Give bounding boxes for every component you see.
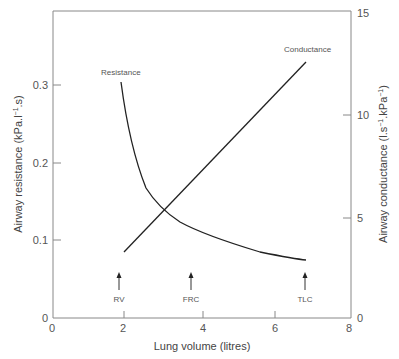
y-right-axis-title: Airway conductance (l.s−1.kPa−1) bbox=[377, 85, 389, 243]
frc-marker: FRC bbox=[183, 272, 200, 304]
svg-text:RV: RV bbox=[114, 295, 126, 304]
resistance-curve bbox=[121, 82, 306, 260]
arrow-up-icon bbox=[303, 272, 308, 278]
svg-text:0.1: 0.1 bbox=[33, 234, 48, 246]
svg-text:2: 2 bbox=[120, 322, 126, 334]
arrow-up-icon bbox=[117, 272, 122, 278]
arrow-up-icon bbox=[189, 272, 194, 278]
svg-text:10: 10 bbox=[357, 109, 369, 121]
svg-text:FRC: FRC bbox=[183, 295, 200, 304]
svg-text:0: 0 bbox=[42, 312, 48, 324]
svg-text:0.3: 0.3 bbox=[33, 79, 48, 91]
x-ticks bbox=[124, 311, 275, 318]
x-tick-labels: 0 2 4 6 8 bbox=[49, 322, 352, 334]
chart: 0 2 4 6 8 0 0.1 0.2 0.3 0 5 10 15 Lung v… bbox=[0, 0, 399, 359]
svg-text:4: 4 bbox=[200, 322, 206, 334]
rv-marker: RV bbox=[114, 272, 126, 304]
conductance-label: Conductance bbox=[284, 45, 332, 54]
conductance-line bbox=[124, 62, 306, 252]
y-right-tick-labels: 0 5 10 15 bbox=[357, 7, 369, 324]
y-left-tick-labels: 0 0.1 0.2 0.3 bbox=[33, 79, 48, 324]
svg-text:15: 15 bbox=[357, 7, 369, 19]
svg-text:0: 0 bbox=[49, 322, 55, 334]
tlc-marker: TLC bbox=[297, 272, 312, 304]
svg-text:TLC: TLC bbox=[297, 295, 312, 304]
svg-text:0: 0 bbox=[357, 312, 363, 324]
svg-text:8: 8 bbox=[346, 322, 352, 334]
y-left-axis-title: Airway resistance (kPa.l−1.s) bbox=[12, 95, 24, 233]
y-left-ticks bbox=[53, 85, 61, 240]
svg-text:6: 6 bbox=[272, 322, 278, 334]
y-right-ticks bbox=[343, 115, 351, 218]
resistance-label: Resistance bbox=[101, 68, 141, 77]
x-axis-title: Lung volume (litres) bbox=[154, 340, 251, 352]
svg-text:5: 5 bbox=[357, 212, 363, 224]
svg-text:0.2: 0.2 bbox=[33, 157, 48, 169]
